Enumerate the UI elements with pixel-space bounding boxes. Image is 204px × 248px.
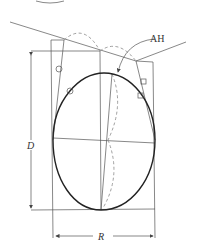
egg-construction-diagram: D R AH [0, 0, 204, 248]
d-label: D [26, 140, 35, 151]
oblique-line-left [10, 22, 136, 61]
r-label: R [97, 231, 104, 242]
oblique-line-right [136, 42, 186, 61]
center-vertical-line [100, 51, 101, 210]
ah-leader-arc [118, 39, 154, 72]
ah-label: AH [150, 33, 164, 44]
right-box-top [136, 61, 153, 62]
top-label-fragment [36, 1, 64, 3]
inner-guide-line [101, 74, 112, 210]
dashed-curve-lower [103, 140, 114, 208]
major-axis-line [53, 138, 155, 143]
square-marker-1 [141, 79, 146, 84]
